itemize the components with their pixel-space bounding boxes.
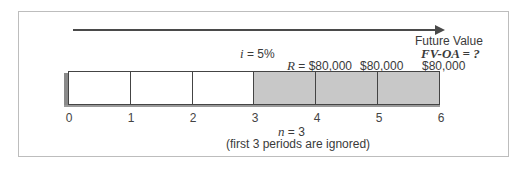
- period-tick-6: 6: [438, 111, 445, 125]
- period-tick-4: 4: [314, 111, 321, 125]
- ignored-periods-note: (first 3 periods are ignored): [226, 137, 370, 151]
- period-tick-2: 2: [190, 111, 197, 125]
- time-arrow-line: [73, 29, 437, 31]
- period-tick-0: 0: [66, 111, 73, 125]
- period-tick-3: 3: [252, 111, 259, 125]
- period-tick-5: 5: [376, 111, 383, 125]
- period-cell-1: [69, 72, 131, 104]
- period-tick-1: 1: [128, 111, 135, 125]
- timeline-shadow-bottom: [64, 105, 440, 107]
- period-cell-5: [316, 72, 378, 104]
- period-cell-3: [193, 72, 255, 104]
- period-cell-6: [378, 72, 439, 104]
- period-cell-2: [131, 72, 193, 104]
- period-cell-4: [254, 72, 316, 104]
- interest-rate-label: i = 5%: [240, 47, 275, 61]
- timeline-bar: [68, 71, 440, 105]
